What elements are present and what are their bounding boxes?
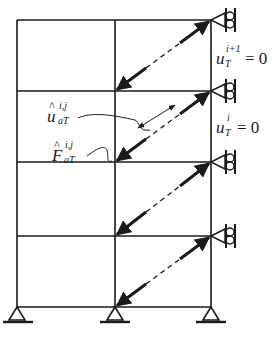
displacement-double-arrow <box>138 105 175 128</box>
u-top-base: u <box>216 49 225 68</box>
u-top-equals: = 0 <box>245 50 267 67</box>
hat-accent: ^ <box>49 100 55 112</box>
u-top-subscript: T <box>225 59 231 69</box>
roller-support-icon <box>211 79 235 103</box>
leader-F-hat <box>87 148 112 162</box>
label-F-hat-aT: F^ i,j aT <box>52 147 62 164</box>
diagonal-arrow-storey-4 <box>117 238 209 306</box>
diagonal-arrow-storey-3 <box>117 164 209 235</box>
F-hat-superscript: i,j <box>65 140 73 150</box>
roller-support-icon <box>211 224 235 248</box>
pinned-support-icon <box>196 307 226 322</box>
label-u-T-i: u i T = 0 <box>216 119 225 136</box>
F-hat-subscript: aT <box>64 155 75 165</box>
base-supports <box>3 307 226 322</box>
diagonal-arrow-storey-2 <box>117 93 209 161</box>
u-mid-base: u <box>216 118 225 137</box>
frame-columns <box>17 20 211 307</box>
pinned-support-icon <box>3 307 33 322</box>
label-u-hat-aT: u^ i,j aT <box>47 108 56 125</box>
u-mid-superscript: i <box>227 113 230 123</box>
u-mid-equals: = 0 <box>237 119 259 136</box>
u-top-superscript: i+1 <box>226 44 241 54</box>
roller-support-icon <box>211 150 235 174</box>
hat-accent: ^ <box>54 139 60 151</box>
roller-support-icon <box>211 8 235 32</box>
diagonal-arrow-storey-1 <box>117 22 209 90</box>
frame-beams <box>17 20 211 307</box>
leader-u-hat <box>78 115 150 131</box>
u-hat-superscript: i,j <box>59 101 67 111</box>
u-mid-subscript: T <box>225 128 231 138</box>
pinned-support-icon <box>100 307 130 322</box>
label-u-T-i-plus-1: u i+1 T = 0 <box>216 50 225 67</box>
diagonal-force-elements <box>78 22 209 306</box>
u-hat-subscript: aT <box>58 116 69 126</box>
